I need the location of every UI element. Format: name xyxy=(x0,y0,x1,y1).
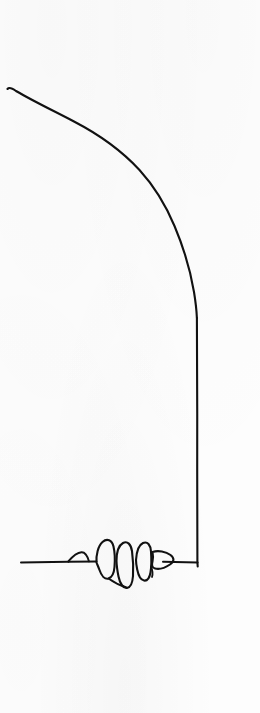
finger-one-stroke xyxy=(96,540,114,579)
arched-line-stroke xyxy=(8,88,197,318)
finger-two-stroke xyxy=(117,542,134,588)
baseline-right-stroke xyxy=(163,562,198,563)
line-drawing-svg xyxy=(0,0,260,713)
drawing-canvas: Hand Gripping a Bent Line pen and ink li… xyxy=(0,0,260,713)
palm-edge-stroke xyxy=(109,579,127,588)
thumb-stroke xyxy=(69,552,90,561)
finger-three-stroke xyxy=(136,542,151,580)
vertical-line-stroke xyxy=(197,318,198,567)
finger-four-stroke xyxy=(152,551,173,569)
baseline-left-stroke xyxy=(21,562,69,563)
